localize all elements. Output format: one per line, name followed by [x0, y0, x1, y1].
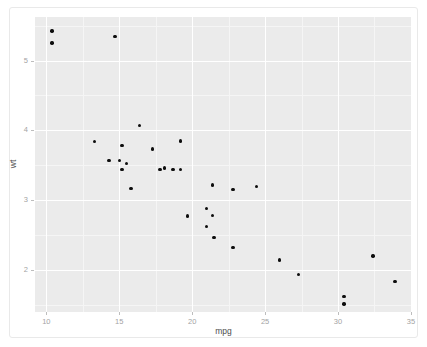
x-axis-title: mpg — [35, 326, 412, 336]
data-point — [138, 124, 141, 127]
major-gridline-vertical — [265, 17, 266, 312]
data-point — [186, 214, 189, 217]
minor-gridline-horizontal — [35, 165, 412, 166]
data-point — [120, 168, 123, 171]
data-point — [171, 168, 174, 171]
major-gridline-horizontal — [35, 130, 412, 131]
major-gridline-vertical — [338, 17, 339, 312]
major-gridline-vertical — [119, 17, 120, 312]
major-gridline-horizontal — [35, 200, 412, 201]
data-point — [205, 207, 208, 210]
x-tick-label: 30 — [334, 317, 342, 326]
data-point — [118, 159, 121, 162]
data-point — [205, 225, 208, 228]
data-point — [179, 139, 182, 142]
y-axis-title: wt — [8, 160, 18, 169]
x-tick-mark — [265, 312, 266, 315]
data-point — [163, 166, 166, 169]
x-tick-label: 35 — [407, 317, 415, 326]
x-tick-mark — [119, 312, 120, 315]
data-point — [50, 29, 53, 32]
y-tick-mark — [31, 61, 34, 62]
x-tick-mark — [192, 312, 193, 315]
x-tick-mark — [411, 312, 412, 315]
data-point — [129, 187, 132, 190]
data-point — [50, 41, 53, 44]
data-point — [113, 35, 116, 38]
x-tick-label: 25 — [261, 317, 269, 326]
major-gridline-horizontal — [35, 61, 412, 62]
data-point — [342, 295, 345, 298]
data-point — [211, 183, 214, 186]
data-point — [212, 236, 215, 239]
scatter-plot-figure: 101520253035 2345 mpg wt — [0, 0, 427, 347]
data-point — [151, 147, 154, 150]
data-point — [179, 168, 182, 171]
minor-gridline-horizontal — [35, 95, 412, 96]
minor-gridline-horizontal — [35, 26, 412, 27]
data-point — [93, 140, 96, 143]
data-point — [255, 185, 258, 188]
y-tick-mark — [31, 130, 34, 131]
data-point — [158, 168, 161, 171]
x-tick-mark — [338, 312, 339, 315]
y-tick-mark — [31, 200, 34, 201]
y-tick-mark — [31, 270, 34, 271]
plot-panel — [35, 17, 412, 312]
major-gridline-vertical — [46, 17, 47, 312]
major-gridline-vertical — [192, 17, 193, 312]
x-tick-label: 15 — [115, 317, 123, 326]
data-point — [211, 214, 214, 217]
major-gridline-vertical — [411, 17, 412, 312]
minor-gridline-horizontal — [35, 305, 412, 306]
x-tick-mark — [46, 312, 47, 315]
data-point — [231, 246, 234, 249]
data-point — [297, 273, 300, 276]
major-gridline-horizontal — [35, 270, 412, 271]
data-point — [107, 159, 110, 162]
data-point — [231, 188, 234, 191]
minor-gridline-horizontal — [35, 235, 412, 236]
data-point — [371, 254, 374, 257]
data-point — [278, 258, 281, 261]
x-tick-label: 10 — [42, 317, 50, 326]
data-point — [120, 144, 123, 147]
x-tick-label: 20 — [188, 317, 196, 326]
data-point — [393, 280, 396, 283]
data-point — [342, 302, 345, 305]
